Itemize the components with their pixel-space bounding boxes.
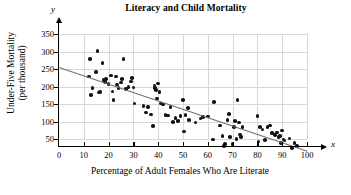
y-axis-tick — [54, 69, 59, 70]
scatter-point — [268, 124, 272, 128]
scatter-point — [122, 57, 126, 61]
y-axis-tick — [54, 139, 59, 140]
scatter-point — [96, 49, 100, 53]
y-axis-tick-label: 300 — [32, 47, 54, 57]
y-axis-tick — [54, 122, 59, 123]
scatter-point — [156, 82, 160, 86]
scatter-point — [278, 134, 282, 138]
scatter-point — [218, 124, 222, 128]
gridline-vertical — [307, 34, 308, 139]
gridline-horizontal — [59, 87, 307, 88]
x-axis-tick — [183, 142, 184, 147]
y-axis-tick-label: 150 — [32, 99, 54, 109]
scatter-point — [179, 114, 183, 118]
scatter-point — [283, 139, 287, 143]
scatter-point — [144, 111, 148, 115]
x-axis-tick — [257, 142, 258, 147]
scatter-point — [142, 104, 146, 108]
scatter-point — [112, 98, 116, 102]
scatter-point — [235, 137, 239, 141]
y-axis-label-line1: Under-Five Mortality — [6, 13, 17, 133]
y-axis-tick-label: 200 — [32, 82, 54, 92]
plot-area — [59, 34, 307, 139]
scatter-point — [129, 80, 133, 84]
x-axis-arrow-icon — [321, 144, 327, 150]
scatter-point — [91, 86, 95, 90]
scatter-point — [256, 114, 260, 118]
gridline-horizontal — [59, 122, 307, 123]
scatter-point — [132, 86, 136, 90]
scatter-point — [89, 93, 93, 97]
scatter-point — [151, 124, 155, 128]
y-axis-tick — [54, 52, 59, 53]
scatter-point — [149, 113, 153, 117]
scatter-point — [114, 75, 118, 79]
y-axis-tick — [54, 87, 59, 88]
scatter-point — [236, 98, 240, 102]
scatter-point — [261, 128, 265, 132]
scatter-point — [154, 88, 158, 92]
scatter-point — [211, 138, 215, 142]
scatter-point — [158, 90, 162, 94]
scatter-point — [171, 120, 175, 124]
x-axis-tick-label: 100 — [296, 150, 318, 160]
scatter-point — [194, 121, 198, 125]
scatter-point — [228, 135, 232, 139]
x-axis-tick — [208, 142, 209, 147]
x-axis-tick-label: 40 — [147, 150, 169, 160]
x-axis-tick-label: 70 — [222, 150, 244, 160]
y-axis-tick-label: 100 — [32, 117, 54, 127]
scatter-point — [146, 105, 150, 109]
y-axis-tick-label: 250 — [32, 64, 54, 74]
x-axis-tick-label: 20 — [98, 150, 120, 160]
scatter-point — [181, 98, 185, 102]
x-axis-tick-label: 0 — [48, 150, 70, 160]
x-axis-label: Percentage of Adult Females Who Are Lite… — [30, 166, 330, 176]
scatter-point — [221, 134, 225, 138]
x-axis-tick — [133, 142, 134, 147]
chart-title: Literacy and Child Mortality — [86, 3, 286, 13]
scatter-point — [88, 57, 92, 61]
scatter-point — [98, 90, 102, 94]
scatter-point — [94, 70, 98, 74]
scatter-point — [120, 77, 124, 81]
scatter-point — [104, 77, 108, 81]
x-axis-tick — [307, 142, 308, 147]
scatter-point — [237, 121, 241, 125]
x-axis-tick-label: 10 — [73, 150, 95, 160]
scatter-point — [130, 76, 134, 80]
scatter-point — [166, 114, 170, 118]
x-axis-tick-label: 80 — [246, 150, 268, 160]
y-axis-tick — [54, 104, 59, 105]
x-axis-tick-label: 90 — [271, 150, 293, 160]
y-axis-line — [58, 22, 59, 147]
x-axis-tick — [158, 142, 159, 147]
scatter-point — [119, 81, 123, 85]
y-axis-arrow-icon — [56, 17, 62, 23]
scatter-point — [101, 61, 105, 65]
y-axis-tick-label: 350 — [32, 29, 54, 39]
x-axis-tick-label: 50 — [172, 150, 194, 160]
x-axis-tick — [282, 142, 283, 147]
chart-figure: Literacy and Child Mortality y x 5010015… — [0, 0, 351, 195]
scatter-point — [182, 130, 186, 134]
scatter-point — [187, 118, 191, 122]
scatter-point — [263, 138, 267, 142]
y-axis-tick-label: 50 — [32, 134, 54, 144]
y-axis-label-line2: (per thousand) — [17, 13, 28, 133]
scatter-point — [227, 112, 231, 116]
scatter-point — [111, 90, 115, 94]
scatter-point — [184, 113, 188, 117]
x-axis-tick-label: 30 — [122, 150, 144, 160]
x-axis-tick — [84, 142, 85, 147]
gridline-horizontal — [59, 34, 307, 35]
scatter-point — [280, 129, 284, 133]
scatter-point — [212, 100, 216, 104]
x-axis-tick — [233, 142, 234, 147]
scatter-point — [127, 85, 131, 89]
x-axis-symbol: x — [331, 139, 335, 149]
scatter-point — [176, 119, 180, 123]
x-axis-tick — [109, 142, 110, 147]
x-axis-tick-label: 60 — [197, 150, 219, 160]
gridline-horizontal — [59, 104, 307, 105]
